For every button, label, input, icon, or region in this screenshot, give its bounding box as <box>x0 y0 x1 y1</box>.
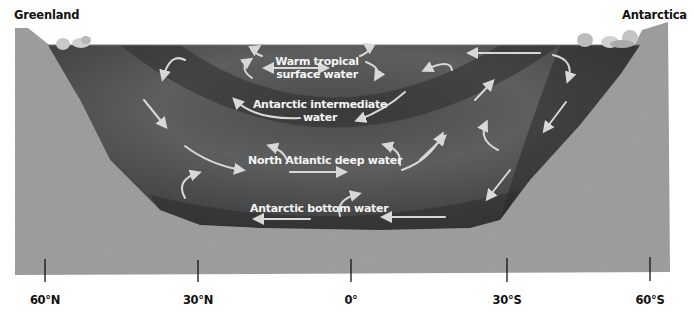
warm-tropical-surface-water-label: Warm tropical surface water <box>262 55 372 81</box>
iceberg-antarctica <box>577 30 638 48</box>
antarctica-label: Antarctica <box>622 8 687 22</box>
latitude-label-30s: 30°S <box>493 293 522 307</box>
antarctic-intermediate-water-label: Antarctic intermediate water <box>245 98 395 124</box>
latitude-label-30n: 30°N <box>183 293 213 307</box>
latitude-label-60n: 60°N <box>30 293 60 307</box>
greenland-label: Greenland <box>14 8 79 22</box>
latitude-label-60s: 60°S <box>636 293 665 307</box>
ocean-circulation-diagram: Greenland Antarctica Warm tropical surfa… <box>0 0 694 320</box>
antarctic-bottom-water-label: Antarctic bottom water <box>250 202 380 215</box>
latitude-label-equator: 0° <box>344 293 357 307</box>
north-atlantic-deep-water-label: North Atlantic deep water <box>248 154 398 167</box>
